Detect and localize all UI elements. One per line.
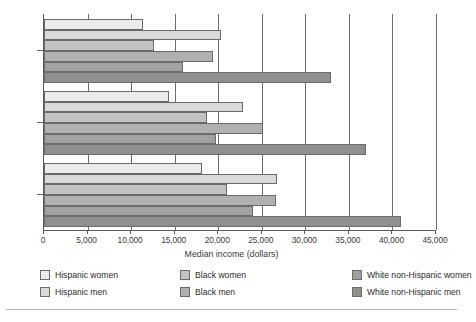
bar (44, 123, 263, 134)
bar (44, 19, 143, 30)
bar (44, 216, 401, 227)
chart-legend: Hispanic womenBlack womenWhite non-Hispa… (40, 266, 440, 300)
legend-label: White non-Hispanic women (367, 270, 472, 280)
x-tick (217, 230, 218, 234)
x-tick-label: 10,000 (118, 235, 143, 245)
legend-item[interactable]: White non-Hispanic men (352, 287, 476, 297)
legend-label: Black men (195, 287, 235, 297)
x-tick-label: 5,000 (76, 235, 96, 245)
x-tick-label: 40,000 (379, 235, 404, 245)
legend-label: White non-Hispanic men (367, 287, 461, 297)
bar (44, 91, 169, 102)
x-tick-label: 0 (41, 235, 46, 245)
legend-label: Hispanic men (55, 287, 107, 297)
x-tick (87, 230, 88, 234)
footer-divider (6, 309, 457, 310)
x-tick (435, 230, 436, 234)
bar (44, 72, 331, 83)
x-tick (304, 230, 305, 234)
bar (44, 206, 253, 217)
legend-swatch-icon (180, 270, 190, 280)
bar (44, 40, 154, 51)
x-tick-label: 15,000 (161, 235, 186, 245)
bar (44, 102, 243, 113)
legend-item[interactable]: Black women (180, 270, 352, 280)
legend-item[interactable]: Hispanic women (40, 270, 180, 280)
bar (44, 112, 207, 123)
bar (44, 51, 213, 62)
legend-label: Black women (195, 270, 246, 280)
gridline-35000 (349, 14, 350, 230)
legend-swatch-icon (352, 287, 362, 297)
bar (44, 184, 227, 195)
bar (44, 144, 366, 155)
gridline-45000 (436, 14, 437, 230)
legend-swatch-icon (40, 270, 50, 280)
x-tick (348, 230, 349, 234)
legend-swatch-icon (40, 287, 50, 297)
x-tick-label: 25,000 (248, 235, 273, 245)
legend-item[interactable]: Black men (180, 287, 352, 297)
x-axis-line (43, 230, 435, 231)
x-tick (43, 230, 44, 234)
bar (44, 30, 221, 41)
plot-area (43, 14, 435, 230)
bar (44, 62, 183, 73)
x-tick-label: 35,000 (335, 235, 360, 245)
gridline-40000 (392, 14, 393, 230)
x-tick-label: 30,000 (292, 235, 317, 245)
gridline-30000 (305, 14, 306, 230)
x-tick (174, 230, 175, 234)
y-tick (37, 194, 43, 195)
x-tick-label: 45,000 (422, 235, 447, 245)
y-tick (37, 122, 43, 123)
x-tick (130, 230, 131, 234)
y-tick (37, 50, 43, 51)
legend-item[interactable]: Hispanic men (40, 287, 180, 297)
legend-swatch-icon (180, 287, 190, 297)
bar (44, 174, 277, 185)
x-tick (391, 230, 392, 234)
x-tick (261, 230, 262, 234)
legend-item[interactable]: White non-Hispanic women (352, 270, 476, 280)
bar (44, 134, 216, 145)
x-axis-title: Median income (dollars) (0, 249, 463, 259)
legend-label: Hispanic women (55, 270, 118, 280)
legend-swatch-icon (352, 270, 362, 280)
bar (44, 163, 202, 174)
bar (44, 195, 276, 206)
x-tick-label: 20,000 (205, 235, 230, 245)
